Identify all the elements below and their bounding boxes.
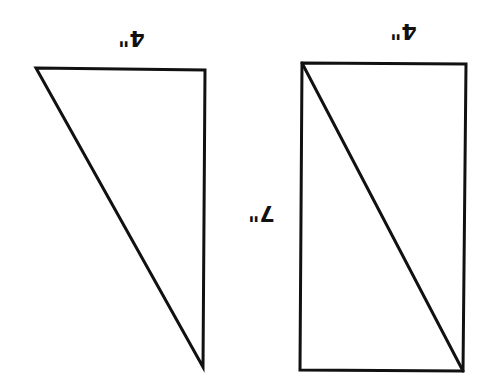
rectangle-width-label: 4" <box>390 20 417 42</box>
triangle-width-label: 4" <box>118 27 145 49</box>
right-triangle <box>36 68 205 367</box>
rectangle-diagonal <box>302 63 463 371</box>
geometry-diagram <box>0 0 495 389</box>
rectangle-height-label: 7" <box>248 202 275 224</box>
